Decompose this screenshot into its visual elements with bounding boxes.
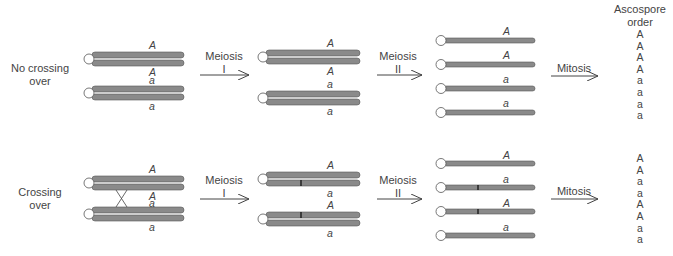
row1-stage2-chromosomes	[436, 36, 535, 118]
allele-label: a	[503, 174, 509, 185]
row1-label-line1: No crossing	[8, 62, 72, 75]
allele-label: A	[149, 40, 156, 51]
allele-label: a	[149, 101, 155, 112]
row1-spore-order: A A A A a a a a	[633, 29, 647, 122]
allele-label: a	[327, 79, 333, 90]
allele-label: A	[327, 160, 334, 171]
spore: a	[633, 234, 647, 246]
header-line1: Ascospore	[610, 3, 670, 16]
allele-label: a	[149, 75, 155, 86]
allele-label: a	[327, 228, 333, 239]
allele-label: a	[503, 74, 509, 85]
ascospore-order-header: Ascospore order	[610, 3, 670, 29]
row2-spore-order: A A a a A A a a	[633, 153, 647, 246]
row2-label: Crossing over	[8, 186, 72, 212]
meiosis-label: Meiosis	[200, 50, 248, 63]
row1-meiosis2-label: Meiosis II	[374, 50, 422, 76]
spore: A	[633, 29, 647, 41]
allele-label: a	[503, 222, 509, 233]
meiosis-label: Meiosis	[200, 174, 248, 187]
row2-stage1-chromosomes	[258, 172, 360, 226]
meiosis-label: Meiosis	[374, 50, 422, 63]
spore: A	[633, 153, 647, 165]
spore: a	[633, 110, 647, 122]
allele-label: A	[327, 200, 334, 211]
row2-stage0-chromosomes	[84, 176, 184, 221]
allele-label: A	[149, 164, 156, 175]
row2-label-line2: over	[8, 199, 72, 212]
meiosis-stage-label: II	[374, 187, 422, 200]
allele-label: a	[327, 188, 333, 199]
row2-meiosis1-label: Meiosis I	[200, 174, 248, 200]
allele-label: a	[503, 98, 509, 109]
meiosis-stage-label: II	[374, 63, 422, 76]
allele-label: A	[503, 26, 510, 37]
row2-stage2-chromosomes	[436, 159, 535, 241]
meiosis-stage-label: I	[200, 63, 248, 76]
allele-label: A	[327, 66, 334, 77]
row1-label-line2: over	[8, 75, 72, 88]
meiosis-label: Meiosis	[374, 174, 422, 187]
row1-stage0-chromosomes	[84, 52, 184, 100]
allele-label: a	[327, 106, 333, 117]
row2-meiosis2-label: Meiosis II	[374, 174, 422, 200]
allele-label: A	[503, 150, 510, 161]
allele-label: A	[503, 198, 510, 209]
allele-label: a	[149, 198, 155, 209]
row1-label: No crossing over	[8, 62, 72, 88]
meiosis-stage-label: I	[200, 187, 248, 200]
row1-mitosis-label: Mitosis	[550, 62, 598, 75]
allele-label: A	[327, 38, 334, 49]
row1-stage1-chromosomes	[258, 50, 360, 105]
row1-meiosis1-label: Meiosis I	[200, 50, 248, 76]
meiosis-diagram-graphics	[0, 0, 673, 256]
spore: A	[633, 211, 647, 223]
row2-label-line1: Crossing	[8, 186, 72, 199]
row2-mitosis-label: Mitosis	[550, 185, 598, 198]
allele-label: a	[149, 222, 155, 233]
spore: a	[633, 87, 647, 99]
allele-label: A	[503, 50, 510, 61]
